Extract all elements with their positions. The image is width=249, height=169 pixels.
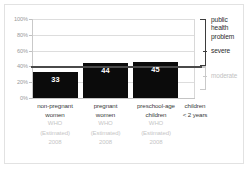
plot-right-edge [194, 19, 195, 98]
y-tickmark-0 [29, 98, 32, 99]
annotation-line-2: health [211, 24, 234, 33]
category-method: (Estimated) [121, 129, 191, 139]
y-tickmark-100 [29, 19, 32, 20]
bracket-moderate [205, 66, 206, 90]
annotation-line-3: problem [211, 33, 234, 42]
category-source: WHO [121, 119, 191, 129]
y-tick-label-40: 40% [2, 63, 28, 69]
bar-value-preschool-age-children: 45 [133, 65, 178, 74]
annotation-moderate: moderate [211, 72, 237, 81]
y-tick-label-20: 20% [2, 79, 28, 85]
bracket-public-health-problem [205, 19, 206, 66]
y-tickmark-20 [29, 82, 32, 83]
annotation-public-health-problem: public health problem [211, 16, 234, 42]
category-label-children-under-2-years: children < 2 years [166, 101, 224, 119]
y-tickmark-80 [29, 35, 32, 36]
bracket-cap-top [200, 19, 206, 20]
y-tick-label-80: 80% [2, 32, 28, 38]
category-year: 2008 [121, 138, 191, 148]
y-tickmark-60 [29, 51, 32, 52]
y-tick-label-60: 60% [2, 48, 28, 54]
annotation-line-1: public [211, 16, 234, 25]
gridline-0 [32, 98, 195, 99]
gridline-80 [32, 35, 195, 36]
bar-value-non-pregnant-women: 33 [33, 75, 78, 84]
gridline-60 [32, 51, 195, 52]
gridline-100 [32, 19, 195, 20]
annotation-severe: severe [211, 47, 230, 56]
bracket-cap-moderate-bottom [200, 89, 206, 90]
anemia-prevalence-bar-chart: 100% 80% 60% 40% 20% 0% 33 44 45 non-pre… [0, 0, 249, 169]
bracket-tick-moderate [203, 76, 207, 77]
category-name-line2: < 2 years [166, 110, 224, 119]
y-tick-label-100: 100% [2, 16, 28, 22]
category-name-line1: children [166, 101, 224, 110]
bracket-tick-severe [203, 51, 207, 52]
bar-value-pregnant-women: 44 [83, 66, 128, 75]
